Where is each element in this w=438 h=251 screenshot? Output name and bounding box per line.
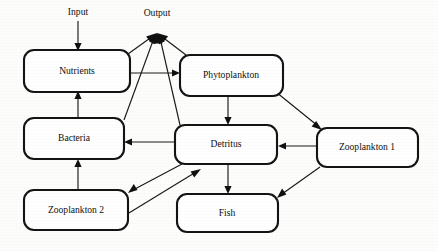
output-label: Output xyxy=(144,7,171,18)
diagram-canvas: Nutrients Phytoplankton Bacteria Detritu… xyxy=(0,0,438,251)
edge-input-to-nutrients xyxy=(74,21,81,51)
edge-detritus-to-bacteria xyxy=(124,138,175,145)
input-label: Input xyxy=(68,6,89,17)
node-phytoplankton[interactable]: Phytoplankton xyxy=(180,55,283,96)
edge-nutrients-to-output xyxy=(128,33,157,54)
edge-detritus-to-fish xyxy=(224,164,231,194)
edge-detritus-to-zooplankton2 xyxy=(128,164,182,193)
node-fish[interactable]: Fish xyxy=(177,194,278,232)
node-label-nutrients: Nutrients xyxy=(59,65,95,76)
io-label-layer: Input Output xyxy=(68,6,171,18)
edge-zooplankton1-to-fish xyxy=(277,167,320,198)
node-zooplankton2[interactable]: Zooplankton 2 xyxy=(24,190,128,230)
edge-zooplankton1-to-detritus xyxy=(278,142,317,149)
node-label-zooplankton1: Zooplankton 1 xyxy=(339,141,395,152)
node-label-zooplankton2: Zooplankton 2 xyxy=(48,204,104,215)
edge-zooplankton2-to-bacteria xyxy=(74,159,81,190)
node-label-fish: Fish xyxy=(219,207,236,218)
node-bacteria[interactable]: Bacteria xyxy=(24,118,124,159)
node-zooplankton1[interactable]: Zooplankton 1 xyxy=(317,128,418,167)
node-label-bacteria: Bacteria xyxy=(58,132,91,143)
node-label-phytoplankton: Phytoplankton xyxy=(203,69,259,80)
edge-phytoplankton-to-detritus xyxy=(224,96,231,125)
node-label-detritus: Detritus xyxy=(211,138,242,149)
node-layer: Nutrients Phytoplankton Bacteria Detritu… xyxy=(24,50,418,232)
edge-detritus-to-output xyxy=(157,33,180,125)
edge-nutrients-to-phytoplankton xyxy=(130,69,180,76)
edge-phytoplankton-to-zooplankton1 xyxy=(276,92,322,130)
node-nutrients[interactable]: Nutrients xyxy=(24,50,130,92)
node-detritus[interactable]: Detritus xyxy=(175,125,277,164)
edge-bacteria-to-nutrients xyxy=(74,91,81,118)
ecosystem-flow-diagram: Nutrients Phytoplankton Bacteria Detritu… xyxy=(0,0,438,251)
